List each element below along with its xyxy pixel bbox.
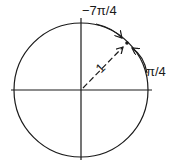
- unit-circle-diagram: −7π/4 π/4 1: [0, 0, 172, 168]
- radius-label: 1: [93, 60, 109, 76]
- point-on-circle: [125, 41, 129, 45]
- right-angle-label: π/4: [146, 64, 166, 79]
- top-angle-label: −7π/4: [82, 3, 117, 18]
